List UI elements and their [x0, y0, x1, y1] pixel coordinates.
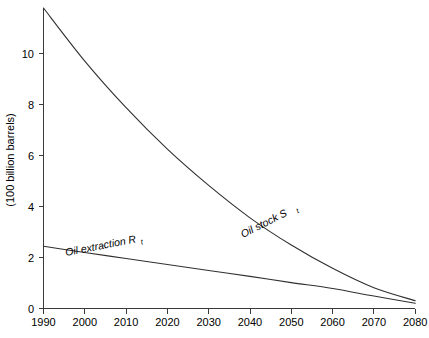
- y-tick-label-8: 8: [28, 99, 34, 111]
- x-tick-label-2040: 2040: [238, 316, 262, 328]
- x-tick-label-2060: 2060: [320, 316, 344, 328]
- x-tick-label-2030: 2030: [196, 316, 220, 328]
- y-tick-label-4: 4: [28, 201, 34, 213]
- x-tick-label-2020: 2020: [155, 316, 179, 328]
- y-tick-label-2: 2: [28, 252, 34, 264]
- x-tick-label-2050: 2050: [279, 316, 303, 328]
- y-tick-label-10: 10: [22, 48, 34, 60]
- oil-depletion-line-chart: 10 8 6 4 2 0 1990 2000 2010 2020 2030: [0, 0, 429, 338]
- x-tick-label-1990: 1990: [31, 316, 55, 328]
- x-tick-label-2000: 2000: [73, 316, 97, 328]
- y-tick-label-6: 6: [28, 150, 34, 162]
- chart-figure: 10 8 6 4 2 0 1990 2000 2010 2020 2030: [0, 0, 429, 338]
- chart-background: [0, 0, 429, 338]
- x-tick-label-2010: 2010: [114, 316, 138, 328]
- x-tick-label-2070: 2070: [362, 316, 386, 328]
- y-axis-title: (100 billion barrels): [4, 113, 16, 207]
- x-tick-label-2080: 2080: [403, 316, 427, 328]
- y-tick-label-0: 0: [28, 303, 34, 315]
